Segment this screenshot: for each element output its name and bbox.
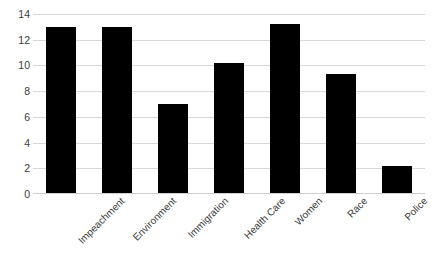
x-axis-tick-label: Impeachment bbox=[77, 196, 127, 246]
x-axis-baseline bbox=[33, 193, 425, 194]
y-axis-tick-labels: 02468101214 bbox=[0, 0, 30, 253]
y-axis-tick-label: 12 bbox=[2, 34, 30, 45]
y-axis-tick-label: 4 bbox=[2, 137, 30, 148]
bar bbox=[46, 27, 76, 194]
y-axis-tick-label: 14 bbox=[2, 9, 30, 20]
bar bbox=[326, 74, 356, 194]
x-axis-tick-label: Environment bbox=[131, 196, 178, 243]
bar bbox=[270, 24, 300, 194]
bars bbox=[33, 14, 425, 194]
y-axis-tick-label: 0 bbox=[2, 189, 30, 200]
bar bbox=[382, 166, 412, 194]
x-axis-tick-label: Police bbox=[403, 196, 429, 222]
x-axis-tick-label: Women bbox=[293, 196, 324, 227]
x-axis-tick-label: Race bbox=[346, 196, 370, 220]
bar bbox=[158, 104, 188, 194]
x-axis-tick-labels: ImpeachmentEnvironmentImmigrationHealth … bbox=[33, 196, 425, 253]
x-axis-tick-label: Health Care bbox=[243, 196, 288, 241]
bar-chart: 02468101214 ImpeachmentEnvironmentImmigr… bbox=[0, 0, 439, 253]
x-axis-tick-label: Immigration bbox=[186, 196, 230, 240]
bar bbox=[214, 63, 244, 194]
plot-area bbox=[33, 14, 425, 194]
y-axis-tick-label: 8 bbox=[2, 86, 30, 97]
bar bbox=[102, 27, 132, 194]
y-axis-tick-label: 2 bbox=[2, 163, 30, 174]
y-axis-tick-label: 6 bbox=[2, 112, 30, 123]
y-axis-tick-label: 10 bbox=[2, 60, 30, 71]
